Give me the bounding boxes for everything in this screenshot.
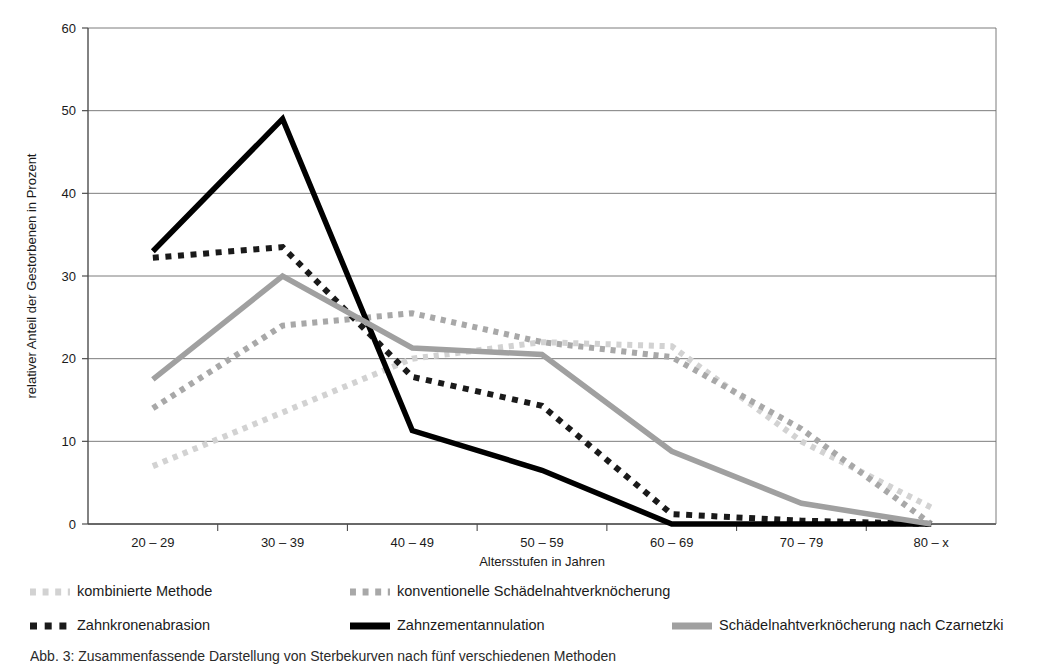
legend-swatch-konventionelle-schaedelnahtverknoecherung [350,585,390,597]
y-tick-label: 20 [62,351,76,366]
x-tick-label: 40 – 49 [391,535,434,550]
legend-item-schaedelnahtverknoecherung-nach-czarnetzki[interactable]: Schädelnahtverknöcherung nach Czarnetzki [672,614,1004,636]
legend-label-kombinierte-methode: kombinierte Methode [77,584,212,599]
x-tick-label: 20 – 29 [131,535,174,550]
y-tick-label: 0 [69,517,76,532]
legend-item-kombinierte-methode[interactable]: kombinierte Methode [30,580,212,602]
y-tick-label: 10 [62,434,76,449]
legend-label-zahnzementannulation: Zahnzementannulation [397,618,545,633]
legend-label-konventionelle-schaedelnahtverknoecherung: konventionelle Schädelnahtverknöcherung [397,584,670,599]
x-tick-label: 80 – x [913,535,949,550]
legend-item-zahnzementannulation[interactable]: Zahnzementannulation [350,614,545,636]
legend-item-konventionelle-schaedelnahtverknoecherung[interactable]: konventionelle Schädelnahtverknöcherung [350,580,670,602]
x-axis-title: Altersstufen in Jahren [479,554,605,569]
legend-swatch-zahnzementannulation [350,619,390,631]
figure-caption: Abb. 3: Zusammenfassende Darstellung von… [30,648,1030,664]
y-tick-label: 30 [62,269,76,284]
x-tick-label: 30 – 39 [261,535,304,550]
legend-label-schaedelnahtverknoecherung-nach-czarnetzki: Schädelnahtverknöcherung nach Czarnetzki [719,618,1004,633]
legend-swatch-zahnkronenabrasion [30,619,70,631]
legend-row-1: kombinierte Methode konventionelle Schäd… [0,580,1047,602]
x-tick-label: 70 – 79 [780,535,823,550]
legend-item-zahnkronenabrasion[interactable]: Zahnkronenabrasion [30,614,210,636]
y-tick-label: 40 [62,186,76,201]
legend-swatch-kombinierte-methode [30,585,70,597]
legend-swatch-schaedelnahtverknoecherung-nach-czarnetzki [672,619,712,631]
y-tick-label: 50 [62,103,76,118]
x-tick-label: 50 – 59 [520,535,563,550]
legend-row-2: Zahnkronenabrasion Zahnzementannulation … [0,614,1047,636]
y-tick-label: 60 [62,21,76,36]
y-axis-title: relativer Anteil der Gestorbenen in Proz… [24,153,39,398]
legend-label-zahnkronenabrasion: Zahnkronenabrasion [77,618,210,633]
figure-container: 0102030405060 20 – 2930 – 3940 – 4950 – … [0,0,1047,664]
line-chart: 0102030405060 20 – 2930 – 3940 – 4950 – … [0,0,1047,570]
x-tick-label: 60 – 69 [650,535,693,550]
